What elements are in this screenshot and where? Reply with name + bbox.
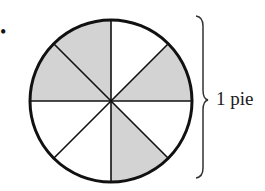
curly-brace-icon bbox=[196, 16, 208, 178]
bullet-marker: • bbox=[0, 22, 6, 42]
brace-label: 1 pie bbox=[216, 88, 253, 110]
